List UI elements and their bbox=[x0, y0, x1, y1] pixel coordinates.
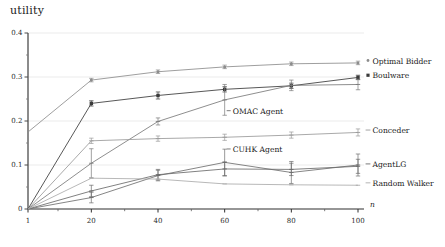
y-tick-label-4: 0.4 bbox=[11, 29, 23, 37]
data-point bbox=[156, 94, 159, 97]
x-tick-label-2: 40 bbox=[154, 217, 163, 225]
series-conceder bbox=[28, 129, 360, 209]
series-line bbox=[28, 178, 358, 209]
series-omac-agent bbox=[28, 79, 360, 209]
legend-label-boulware: Boulware bbox=[373, 71, 410, 80]
series-random-walker bbox=[28, 178, 360, 209]
y-tick-label-0: 0 bbox=[18, 205, 22, 213]
x-tick-label-3: 60 bbox=[220, 217, 229, 225]
line-chart-svg: 00.10.20.30.4120406080100nOptimal Bidder… bbox=[0, 0, 445, 247]
x-axis-label-n: n bbox=[370, 200, 375, 209]
series-line bbox=[28, 77, 358, 209]
series-cuhk-agent bbox=[28, 149, 360, 209]
data-point bbox=[90, 79, 93, 82]
chart-root: utility 00.10.20.30.4120406080100nOptima… bbox=[0, 0, 445, 247]
x-tick-label-4: 80 bbox=[287, 217, 296, 225]
data-point bbox=[356, 76, 359, 79]
y-tick-label-3: 0.3 bbox=[11, 73, 22, 81]
y-tick-label-1: 0.1 bbox=[11, 161, 22, 169]
annotation-label-omac-agent: OMAC Agent bbox=[233, 107, 284, 116]
legend-label-conceder: Conceder bbox=[373, 126, 410, 135]
legend-marker-1 bbox=[366, 74, 369, 77]
legend-label-optimal-bidder: Optimal Bidder bbox=[373, 57, 432, 66]
data-point bbox=[223, 65, 226, 68]
x-tick-label-5: 100 bbox=[351, 217, 364, 225]
series-line bbox=[28, 63, 358, 132]
data-point bbox=[290, 62, 293, 65]
series-line bbox=[28, 162, 358, 209]
x-tick-label-0: 1 bbox=[26, 217, 30, 225]
legend-label-agentlg: AgentLG bbox=[372, 160, 407, 169]
series-agentlg bbox=[28, 159, 360, 209]
data-point bbox=[157, 70, 160, 73]
y-tick-label-2: 0.2 bbox=[11, 117, 22, 125]
data-point bbox=[357, 61, 360, 64]
series-boulware bbox=[28, 75, 360, 209]
legend-label-random-walker: Random Walker bbox=[373, 179, 435, 188]
data-point bbox=[90, 102, 93, 105]
series-optimal-bidder bbox=[28, 61, 360, 132]
legend-marker-0 bbox=[367, 59, 370, 62]
series-line bbox=[28, 84, 358, 209]
x-tick-label-1: 20 bbox=[87, 217, 96, 225]
annotation-label-cuhk-agent: CUHK Agent bbox=[233, 145, 283, 154]
